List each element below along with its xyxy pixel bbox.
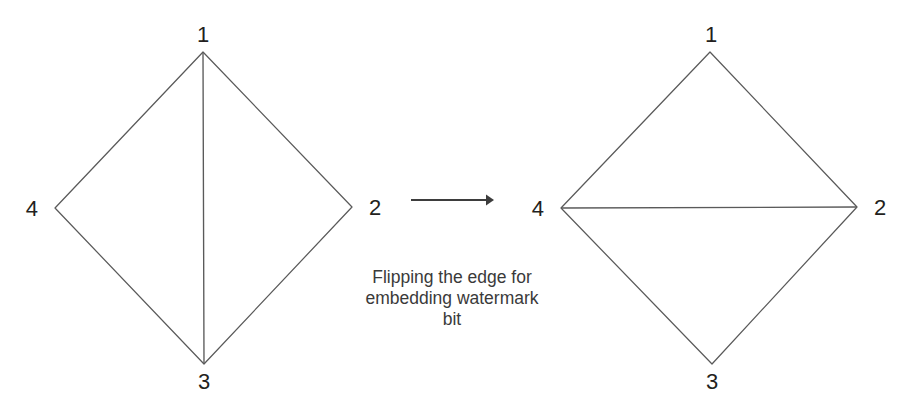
figure-canvas: 1 2 3 4 Flipping the edge for embedding …: [0, 0, 913, 410]
arrow-group: [411, 195, 494, 206]
right-diagonal-edge-4-2: [562, 207, 856, 208]
caption-line-3: bit: [443, 309, 462, 329]
arrow-head-icon: [486, 195, 494, 206]
left-vertex-label-3: 3: [198, 369, 210, 394]
left-vertex-label-1: 1: [197, 22, 209, 47]
left-diagram: 1 2 3 4: [26, 22, 382, 394]
left-vertex-label-4: 4: [26, 196, 38, 221]
right-vertex-label-3: 3: [706, 369, 718, 394]
edge-flip-watermark-figure: 1 2 3 4 Flipping the edge for embedding …: [0, 0, 913, 410]
left-vertex-label-2: 2: [369, 195, 381, 220]
caption-block: Flipping the edge for embedding watermar…: [365, 267, 538, 329]
left-diagonal-edge-1-3: [203, 53, 204, 363]
right-vertex-label-4: 4: [532, 196, 544, 221]
caption-line-1: Flipping the edge for: [372, 267, 532, 287]
right-diagram: 1 2 3 4: [532, 22, 887, 394]
caption-line-2: embedding watermark: [365, 288, 538, 308]
right-vertex-label-1: 1: [705, 22, 717, 47]
right-vertex-label-2: 2: [874, 195, 886, 220]
